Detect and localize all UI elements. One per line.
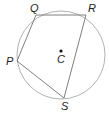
vertex-label-q: Q: [30, 2, 39, 14]
vertex-label-p: P: [6, 55, 14, 67]
circle-diagram: Q R P S C: [0, 0, 109, 114]
vertex-label-s: S: [61, 100, 69, 112]
center-label-c: C: [57, 53, 65, 65]
quadrilateral-pqrs: [17, 15, 86, 98]
vertex-label-r: R: [88, 2, 96, 14]
